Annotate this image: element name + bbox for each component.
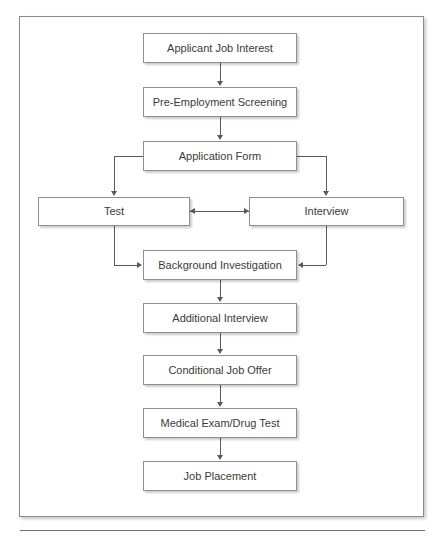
node-job-placement[interactable]: Job Placement bbox=[143, 461, 297, 491]
connector-conditional-to-medical-arrow bbox=[217, 402, 223, 407]
connector-interview-to-background-v bbox=[326, 226, 327, 265]
connector-application-to-interview-h bbox=[297, 156, 326, 157]
connector-test-interview-line bbox=[190, 211, 249, 212]
connector-application-to-test-h bbox=[114, 156, 143, 157]
connector-background-to-additional-arrow bbox=[217, 297, 223, 302]
node-conditional-job-offer[interactable]: Conditional Job Offer bbox=[143, 355, 297, 385]
node-label: Test bbox=[104, 205, 124, 217]
node-pre-employment-screening[interactable]: Pre-Employment Screening bbox=[143, 87, 297, 117]
node-label: Job Placement bbox=[184, 470, 257, 482]
connector-additional-to-conditional-arrow bbox=[217, 349, 223, 354]
connector-test-to-background-v bbox=[114, 226, 115, 265]
connector-additional-to-conditional-line bbox=[220, 333, 221, 349]
node-background-investigation[interactable]: Background Investigation bbox=[143, 250, 297, 280]
node-label: Background Investigation bbox=[158, 259, 282, 271]
connector-interview-to-background-arrow bbox=[298, 262, 303, 268]
node-application-form[interactable]: Application Form bbox=[143, 141, 297, 171]
scan-artifact-text bbox=[0, 0, 443, 11]
connector-background-to-additional-line bbox=[220, 280, 221, 297]
node-medical-exam-drug-test[interactable]: Medical Exam/Drug Test bbox=[143, 408, 297, 438]
node-test[interactable]: Test bbox=[38, 197, 190, 226]
node-label: Applicant Job Interest bbox=[167, 42, 273, 54]
connector-application-to-interview-v bbox=[326, 156, 327, 191]
node-label: Additional Interview bbox=[172, 312, 267, 324]
connector-conditional-to-medical-line bbox=[220, 385, 221, 402]
node-label: Medical Exam/Drug Test bbox=[160, 417, 279, 429]
connector-interview-to-background-h bbox=[303, 265, 326, 266]
connector-screening-to-application-line bbox=[220, 117, 221, 135]
connector-application-to-interview-arrow bbox=[323, 191, 329, 196]
connector-medical-to-placement-arrow bbox=[217, 455, 223, 460]
connector-application-to-test-v bbox=[114, 156, 115, 191]
flowchart-page: Applicant Job Interest Pre-Employment Sc… bbox=[0, 0, 443, 539]
connector-test-interview-arrow-left bbox=[190, 208, 195, 214]
connector-applicant-to-screening-line bbox=[220, 63, 221, 81]
connector-application-to-test-arrow bbox=[111, 191, 117, 196]
node-interview[interactable]: Interview bbox=[249, 197, 404, 226]
connector-applicant-to-screening-arrow bbox=[217, 81, 223, 86]
node-label: Pre-Employment Screening bbox=[153, 96, 288, 108]
connector-screening-to-application-arrow bbox=[217, 135, 223, 140]
node-label: Interview bbox=[304, 205, 348, 217]
connector-medical-to-placement-line bbox=[220, 438, 221, 455]
page-divider-rule bbox=[20, 530, 425, 531]
node-label: Application Form bbox=[179, 150, 262, 162]
node-label: Conditional Job Offer bbox=[168, 364, 271, 376]
connector-test-to-background-arrow bbox=[137, 262, 142, 268]
connector-test-to-background-h bbox=[114, 265, 137, 266]
node-applicant-job-interest[interactable]: Applicant Job Interest bbox=[143, 33, 297, 63]
node-additional-interview[interactable]: Additional Interview bbox=[143, 303, 297, 333]
